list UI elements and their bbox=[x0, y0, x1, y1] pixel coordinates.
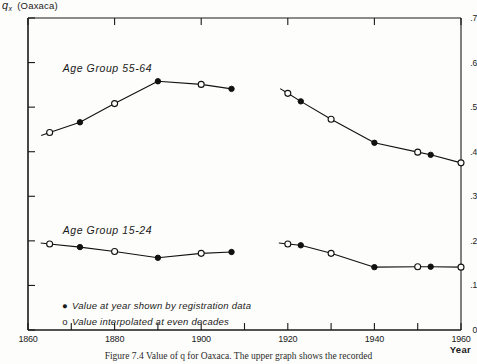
data-point-interpolated bbox=[458, 264, 464, 270]
series-label-lower: Age Group 15-24 bbox=[63, 224, 153, 236]
legend-item-interpolated: oValue interpolated at even decades bbox=[58, 316, 229, 327]
data-point-interpolated bbox=[112, 101, 118, 107]
data-point-interpolated bbox=[198, 250, 204, 256]
x-tick-label: 1900 bbox=[192, 334, 211, 344]
data-point-interpolated bbox=[285, 90, 291, 96]
data-point-interpolated bbox=[415, 264, 421, 270]
figure-container: qx(Oaxaca) .7.6.5.4.3.2.10 1860188019001… bbox=[0, 0, 477, 364]
y-tick-label: .2 bbox=[453, 236, 477, 246]
data-point-registration bbox=[77, 120, 82, 125]
legend-item-registration: ●Value at year shown by registration dat… bbox=[58, 300, 251, 311]
data-point-interpolated bbox=[328, 116, 334, 122]
data-point-interpolated bbox=[415, 149, 421, 155]
data-point-registration bbox=[229, 249, 234, 254]
y-tick-label: .7 bbox=[453, 13, 477, 23]
data-point-registration bbox=[372, 140, 377, 145]
data-series bbox=[280, 89, 464, 166]
data-point-registration bbox=[298, 243, 303, 248]
data-series bbox=[41, 79, 234, 136]
data-point-interpolated bbox=[198, 81, 204, 87]
data-point-interpolated bbox=[47, 130, 53, 136]
y-tick-label: .6 bbox=[453, 58, 477, 68]
data-point-registration bbox=[372, 264, 377, 269]
data-point-interpolated bbox=[112, 249, 118, 255]
data-point-registration bbox=[428, 264, 433, 269]
open-circle-icon: o bbox=[58, 316, 72, 327]
data-point-interpolated bbox=[328, 250, 334, 256]
data-point-registration bbox=[229, 86, 234, 91]
data-point-interpolated bbox=[285, 241, 291, 247]
legend-text-interpolated: Value interpolated at even decades bbox=[72, 316, 229, 327]
data-point-interpolated bbox=[47, 241, 53, 247]
data-series bbox=[279, 241, 464, 270]
x-tick-label: 1940 bbox=[365, 334, 384, 344]
legend-text-registration: Value at year shown by registration data bbox=[72, 300, 251, 311]
figure-caption: Figure 7.4 Value of q for Oaxaca. The up… bbox=[0, 351, 477, 361]
series-label-upper: Age Group 55-64 bbox=[63, 62, 153, 74]
x-tick-label: 1960 bbox=[451, 334, 470, 344]
x-tick-label: 1920 bbox=[278, 334, 297, 344]
y-tick-label: .3 bbox=[453, 191, 477, 201]
y-tick-label: .1 bbox=[453, 280, 477, 290]
data-point-registration bbox=[428, 152, 433, 157]
data-series bbox=[41, 241, 235, 261]
y-tick-label: .4 bbox=[453, 147, 477, 157]
y-tick-label: .5 bbox=[453, 102, 477, 112]
filled-circle-icon: ● bbox=[58, 300, 72, 311]
data-point-registration bbox=[155, 255, 160, 260]
data-point-registration bbox=[155, 79, 160, 84]
x-tick-label: 1880 bbox=[105, 334, 124, 344]
data-point-interpolated bbox=[458, 160, 464, 166]
data-point-registration bbox=[77, 244, 82, 249]
x-tick-label: 1860 bbox=[18, 334, 37, 344]
data-point-registration bbox=[298, 99, 303, 104]
